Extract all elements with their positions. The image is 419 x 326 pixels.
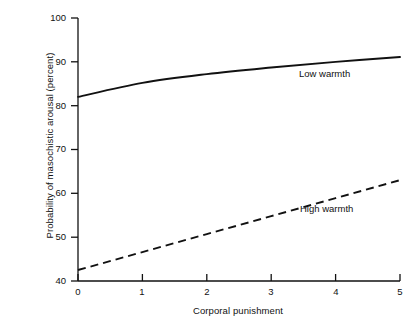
y-axis-title: Probability of masochistic arousal (perc… [44,11,55,281]
x-tick-label-1: 1 [132,287,152,297]
x-tick-label-5: 5 [390,287,410,297]
x-tick-label-3: 3 [261,287,281,297]
y-axis-ticks [71,18,78,281]
series-label-low-warmth: Low warmth [299,68,350,79]
x-tick-label-0: 0 [68,287,88,297]
series-line-high-warmth [78,180,400,270]
chart-container: 100 90 80 70 60 50 40 0 1 2 3 4 5 Probab… [0,0,419,326]
x-tick-label-4: 4 [326,287,346,297]
x-axis-ticks [78,274,400,281]
series-label-high-warmth: High warmth [300,203,353,214]
x-axis-title: Corporal punishment [78,305,398,316]
x-tick-label-2: 2 [197,287,217,297]
series-line-low-warmth [78,57,400,97]
